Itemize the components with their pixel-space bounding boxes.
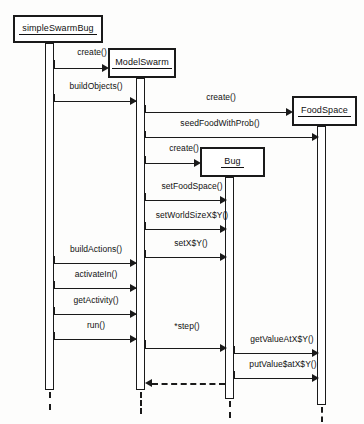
message-label-seed-food-with-prob: seedFoodWithProb() bbox=[160, 118, 280, 128]
message-stem-set-xy bbox=[145, 250, 146, 257]
arrowhead-icon-step bbox=[220, 344, 227, 352]
message-label-create-bug: create() bbox=[148, 143, 220, 153]
message-label-set-food-space: setFoodSpace() bbox=[144, 181, 240, 191]
arrowhead-icon-get-activity bbox=[130, 310, 137, 318]
message-stem-activate-in bbox=[54, 281, 55, 288]
lifeline-tail-modelswarm bbox=[140, 392, 142, 414]
arrowhead-icon-set-food-space bbox=[220, 196, 227, 204]
message-stem-get-activity bbox=[54, 307, 55, 314]
message-arrow-run[interactable] bbox=[54, 339, 136, 340]
lifeline-tail-simpleswarmbug bbox=[49, 392, 51, 410]
message-label-set-world-size: setWorldSizeX$Y() bbox=[141, 210, 243, 220]
arrowhead-icon-run bbox=[130, 335, 137, 343]
message-label-run: run() bbox=[54, 320, 138, 330]
message-label-step: *step() bbox=[148, 321, 226, 331]
arrowhead-icon-put-value-at-xy bbox=[312, 374, 319, 382]
arrowhead-icon-build-objects bbox=[130, 97, 137, 105]
message-arrow-build-actions[interactable] bbox=[54, 263, 136, 264]
arrowhead-icon-set-xy bbox=[220, 253, 227, 261]
object-box-simpleswarmbug[interactable]: simpleSwarmBug bbox=[13, 15, 103, 43]
object-label-simpleswarmbug: simpleSwarmBug bbox=[19, 23, 96, 35]
message-stem-set-world-size bbox=[145, 222, 146, 229]
arrowhead-icon-return-modelswarm bbox=[145, 379, 152, 387]
message-stem-create-modelswarm bbox=[54, 60, 55, 68]
lifeline-tail-bug bbox=[229, 401, 231, 418]
message-stem-build-actions bbox=[54, 256, 55, 263]
arrowhead-icon-create-modelswarm bbox=[102, 64, 109, 72]
message-stem-set-food-space bbox=[145, 193, 146, 200]
message-arrow-seed-food-with-prob[interactable] bbox=[145, 137, 317, 138]
message-label-create-foodspace: create() bbox=[185, 92, 257, 102]
message-stem-put-value-at-xy bbox=[234, 371, 235, 378]
message-arrow-set-world-size[interactable] bbox=[145, 229, 225, 230]
activation-bar-simpleswarmbug bbox=[45, 43, 54, 390]
message-label-put-value-at-xy: putValue$atX$Y() bbox=[231, 359, 335, 369]
message-stem-get-value-at-xy bbox=[234, 346, 235, 353]
message-stem-create-foodspace bbox=[145, 105, 146, 112]
arrowhead-icon-create-bug bbox=[194, 159, 201, 167]
message-label-get-activity: getActivity() bbox=[54, 295, 138, 305]
message-arrow-create-foodspace[interactable] bbox=[145, 112, 291, 113]
message-arrow-build-objects[interactable] bbox=[54, 101, 136, 102]
message-arrow-get-activity[interactable] bbox=[54, 314, 136, 315]
message-arrow-get-value-at-xy[interactable] bbox=[234, 353, 317, 354]
message-stem-create-bug bbox=[145, 156, 146, 163]
message-label-activate-in: activateIn() bbox=[54, 269, 138, 279]
object-label-modelswarm: ModelSwarm bbox=[112, 57, 172, 69]
object-label-bug: Bug bbox=[221, 156, 243, 168]
message-stem-run bbox=[54, 332, 55, 339]
arrowhead-icon-seed-food-with-prob bbox=[312, 133, 319, 141]
activation-bar-modelswarm bbox=[136, 78, 145, 390]
message-arrow-activate-in[interactable] bbox=[54, 288, 136, 289]
message-arrow-create-modelswarm[interactable] bbox=[54, 68, 107, 69]
message-label-build-objects: buildObjects() bbox=[54, 81, 138, 91]
message-label-set-xy: setX$Y() bbox=[148, 238, 234, 248]
message-arrow-set-food-space[interactable] bbox=[145, 200, 225, 201]
object-label-foodspace: FoodSpace bbox=[298, 105, 351, 117]
message-arrow-step[interactable] bbox=[145, 348, 225, 349]
message-stem-build-objects bbox=[54, 94, 55, 101]
arrowhead-icon-activate-in bbox=[130, 284, 137, 292]
message-stem-step bbox=[145, 340, 146, 348]
arrowhead-icon-get-value-at-xy bbox=[312, 349, 319, 357]
return-arrow-bug-to-modelswarm[interactable] bbox=[152, 383, 225, 385]
message-arrow-set-xy[interactable] bbox=[145, 257, 225, 258]
message-arrow-put-value-at-xy[interactable] bbox=[234, 378, 317, 379]
arrowhead-icon-set-world-size bbox=[220, 225, 227, 233]
lifeline-tail-foodspace bbox=[321, 407, 323, 422]
sequence-diagram-canvas: simpleSwarmBug ModelSwarm Bug FoodSpace … bbox=[0, 0, 364, 424]
message-label-create-modelswarm: create() bbox=[56, 47, 128, 57]
message-label-get-value-at-xy: getValueAtX$Y() bbox=[231, 334, 333, 344]
arrowhead-icon-build-actions bbox=[130, 259, 137, 267]
message-arrow-create-bug[interactable] bbox=[145, 163, 199, 164]
arrowhead-icon-create-foodspace bbox=[286, 108, 293, 116]
message-label-build-actions: buildActions() bbox=[54, 244, 138, 254]
object-box-foodspace[interactable]: FoodSpace bbox=[292, 96, 357, 126]
